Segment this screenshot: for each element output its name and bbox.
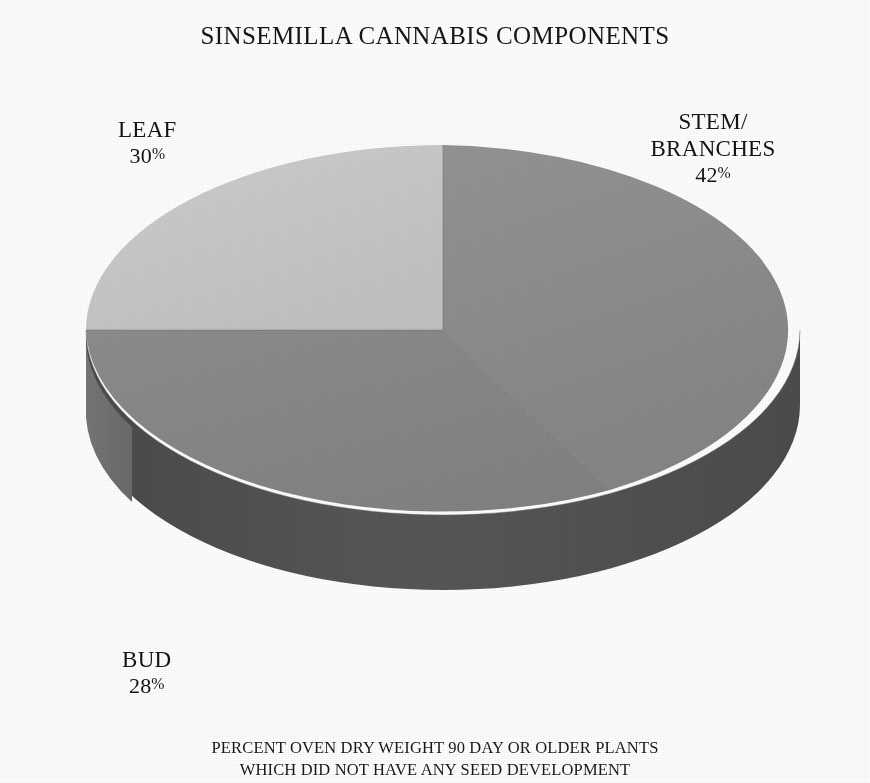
slice-label-leaf-name: LEAF xyxy=(118,116,177,143)
slice-label-stem-branches: STEM/ BRANCHES 42% xyxy=(650,108,775,188)
pie-slice-leaf[interactable] xyxy=(86,145,443,330)
slice-label-stem-percent: 42% xyxy=(650,162,775,188)
chart-caption-line-2: WHICH DID NOT HAVE ANY SEED DEVELOPMENT xyxy=(0,759,870,781)
chart-caption: PERCENT OVEN DRY WEIGHT 90 DAY OR OLDER … xyxy=(0,737,870,781)
percent-symbol-icon: % xyxy=(718,164,731,181)
slice-label-stem-line1: STEM/ xyxy=(650,108,775,135)
slice-label-bud-percent: 28% xyxy=(122,673,171,699)
chart-caption-line-1: PERCENT OVEN DRY WEIGHT 90 DAY OR OLDER … xyxy=(0,737,870,759)
percent-symbol-icon: % xyxy=(152,145,165,162)
chart-page: SINSEMILLA CANNABIS COMPONENTS xyxy=(0,0,870,783)
slice-label-leaf-percent: 30% xyxy=(118,143,177,169)
slice-label-bud-name: BUD xyxy=(122,646,171,673)
slice-label-stem-line2: BRANCHES xyxy=(650,135,775,162)
pie-chart-svg xyxy=(0,0,870,700)
slice-label-leaf: LEAF 30% xyxy=(118,116,177,169)
percent-symbol-icon: % xyxy=(151,675,164,692)
pie-chart: LEAF 30% STEM/ BRANCHES 42% BUD 28% xyxy=(0,0,870,700)
slice-label-bud: BUD 28% xyxy=(122,646,171,699)
